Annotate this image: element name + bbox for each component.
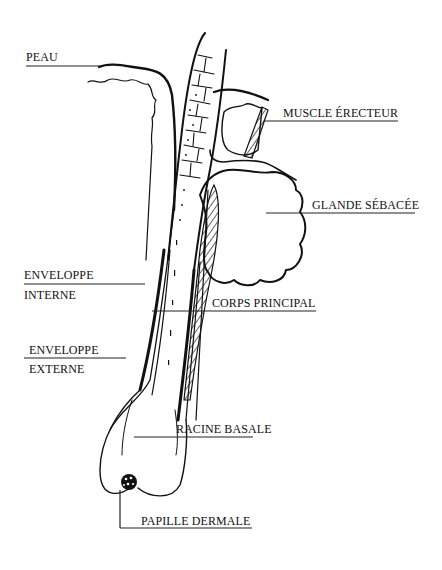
label-peau: PEAU xyxy=(26,50,58,65)
label-corps-principal: CORPS PRINCIPAL xyxy=(212,296,315,311)
label-enveloppe-externe-2: EXTERNE xyxy=(29,362,84,377)
label-enveloppe-externe-1: ENVELOPPE xyxy=(29,343,99,358)
label-muscle-erecteur: MUSCLE ÉRECTEUR xyxy=(283,106,398,121)
erector-muscle xyxy=(210,90,296,180)
hair-bulb xyxy=(100,390,187,496)
dermal-papilla xyxy=(121,474,137,490)
label-papille-dermale: PAPILLE DERMALE xyxy=(141,514,250,529)
label-enveloppe-interne-2: INTERNE xyxy=(24,288,76,303)
label-glande-sebacee: GLANDE SÉBACÉE xyxy=(312,198,419,213)
skin-surface xyxy=(88,65,175,260)
label-racine-basale: RACINE BASALE xyxy=(176,422,272,437)
label-enveloppe-interne-1: ENVELOPPE xyxy=(24,268,94,283)
hair-follicle-diagram xyxy=(0,0,442,570)
